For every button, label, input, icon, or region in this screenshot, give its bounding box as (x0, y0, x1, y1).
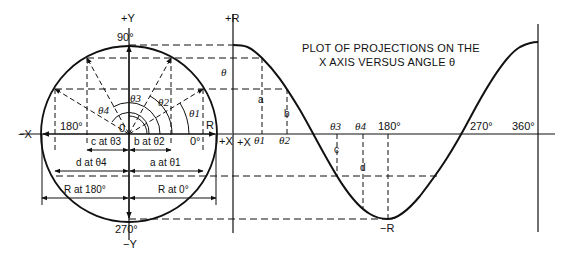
plus-r-label: +R (225, 12, 239, 24)
minus-y-label: −Y (123, 238, 137, 250)
segment-b-label: b (284, 108, 290, 119)
segment-c-label: c (334, 144, 339, 155)
tick-360: 360° (512, 120, 535, 132)
dim-r0-label: R at 0° (158, 184, 189, 195)
origin-label: 0 (119, 122, 125, 134)
plot-labels: +R −R +X θ θ1 θ2 θ3 θ4 180° 270° 360° a … (221, 12, 535, 234)
plus-y-label: +Y (121, 12, 135, 24)
deg0-label: 0° (190, 135, 201, 147)
segment-d-label: d (360, 162, 366, 173)
plus-x-circle-label: +X (219, 135, 233, 147)
plot-title-line1: PLOT OF PROJECTIONS ON THE (302, 42, 480, 54)
minus-x-label: −X (18, 128, 32, 140)
minus-r-label: −R (380, 222, 394, 234)
projection-diagram: +Y 90° 270° −Y −X +X 180° 0° 0 R θ1 θ2 θ… (0, 0, 561, 258)
dim-r180-label: R at 180° (64, 184, 106, 195)
dim-a-label: a at θ1 (150, 157, 181, 168)
deg90-label: 90° (117, 31, 134, 43)
tick-theta3: θ3 (330, 120, 341, 132)
segment-a-label: a (258, 94, 264, 105)
theta3-label: θ3 (130, 92, 141, 104)
circle-axes (20, 28, 232, 240)
theta4-label: θ4 (98, 104, 109, 116)
tick-theta2: θ2 (279, 134, 290, 146)
radius-label: R (206, 119, 214, 131)
plus-x-plot-label: +X (237, 136, 251, 148)
plot-title-line2: X AXIS VERSUS ANGLE θ (319, 56, 455, 68)
projection-guides (55, 45, 440, 219)
tick-theta4: θ4 (355, 120, 366, 132)
tick-theta1: θ1 (254, 134, 265, 146)
dim-d-label: d at θ4 (76, 157, 107, 168)
dim-c-label: c at θ3 (91, 136, 121, 147)
dim-b-label: b at θ2 (134, 136, 165, 147)
theta2-label: θ2 (158, 96, 169, 108)
deg270-label: 270° (115, 223, 138, 235)
deg180-label: 180° (60, 120, 83, 132)
theta-label: θ (221, 66, 227, 78)
circle-labels: +Y 90° 270° −Y −X +X 180° 0° 0 R θ1 θ2 θ… (18, 12, 233, 250)
tick-180: 180° (378, 120, 401, 132)
tick-270: 270° (470, 120, 493, 132)
theta1-label: θ1 (189, 107, 200, 119)
